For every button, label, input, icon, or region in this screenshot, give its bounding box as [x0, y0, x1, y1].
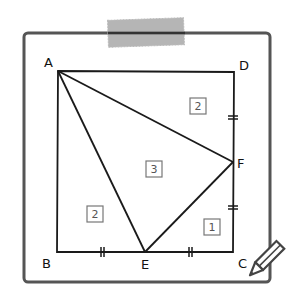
- point-label-E: E: [141, 257, 149, 272]
- region-box-ADF: 2: [190, 98, 206, 114]
- region-box-ECF: 1: [204, 219, 220, 235]
- point-label-B: B: [42, 256, 51, 271]
- svg-text:2: 2: [195, 100, 202, 113]
- point-label-C: C: [238, 256, 247, 271]
- svg-text:3: 3: [151, 163, 158, 176]
- region-box-ABE: 2: [87, 206, 103, 222]
- point-label-A: A: [44, 55, 53, 70]
- point-label-F: F: [237, 156, 244, 171]
- region-box-AEF: 3: [146, 161, 162, 177]
- diagram-canvas: A D F B E C 2 3 2 1: [0, 0, 302, 306]
- svg-text:1: 1: [209, 221, 216, 234]
- svg-text:2: 2: [92, 208, 99, 221]
- point-label-D: D: [239, 58, 249, 73]
